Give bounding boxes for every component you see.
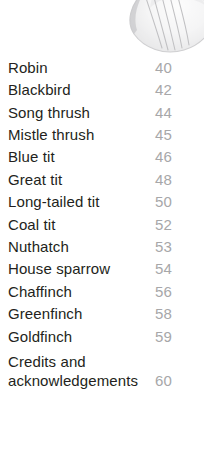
toc-entry-label: House sparrow	[8, 260, 110, 279]
toc-entry[interactable]: Great tit 48	[0, 167, 204, 189]
toc-entry-page: 53	[155, 238, 176, 257]
toc-entry-page: 59	[155, 328, 176, 347]
toc-entry[interactable]: Credits and acknowledgements 60	[0, 346, 204, 390]
toc-entry-page: 58	[155, 305, 176, 324]
toc-entry[interactable]: Blackbird 42	[0, 77, 204, 99]
toc-entry-label: Mistle thrush	[8, 126, 94, 145]
toc-entry-label: Blue tit	[8, 148, 55, 167]
toc-entry-page: 54	[155, 260, 176, 279]
toc-entry-page: 52	[155, 216, 176, 235]
toc-entry[interactable]: Chaffinch 56	[0, 279, 204, 301]
toc-entry-label: Nuthatch	[8, 238, 69, 257]
toc-entry-page: 48	[155, 171, 176, 190]
toc-entry-page: 56	[155, 283, 176, 302]
table-of-contents: Robin 40 Blackbird 42 Song thrush 44 Mis…	[0, 55, 204, 390]
toc-entry[interactable]: House sparrow 54	[0, 257, 204, 279]
toc-entry-label: Blackbird	[8, 81, 71, 100]
toc-entry[interactable]: Coal tit 52	[0, 212, 204, 234]
toc-entry[interactable]: Greenfinch 58	[0, 301, 204, 323]
toc-entry-label: Coal tit	[8, 216, 56, 235]
toc-entry[interactable]: Long-tailed tit 50	[0, 189, 204, 211]
toc-entry[interactable]: Robin 40	[0, 55, 204, 77]
toc-entry-page: 40	[155, 59, 176, 78]
toc-entry-page: 42	[155, 81, 176, 100]
toc-entry-label: Long-tailed tit	[8, 193, 100, 212]
toc-entry[interactable]: Song thrush 44	[0, 100, 204, 122]
toc-entry-page: 46	[155, 148, 176, 167]
toc-entry-page: 50	[155, 193, 176, 212]
toc-entry[interactable]: Blue tit 46	[0, 145, 204, 167]
toc-entry-label: Song thrush	[8, 104, 90, 123]
toc-entry-label: Goldfinch	[8, 328, 72, 347]
toc-entry[interactable]: Mistle thrush 45	[0, 122, 204, 144]
book-contents-page: Robin 40 Blackbird 42 Song thrush 44 Mis…	[0, 0, 204, 462]
toc-entry[interactable]: Nuthatch 53	[0, 234, 204, 256]
toc-entry-page: 44	[155, 104, 176, 123]
toc-entry-label: Great tit	[8, 171, 62, 190]
toc-entry-page: 45	[155, 126, 176, 145]
toc-entry[interactable]: Goldfinch 59	[0, 324, 204, 346]
toc-entry-label: Greenfinch	[8, 305, 82, 324]
toc-entry-label: Credits and acknowledgements	[8, 353, 138, 390]
toc-entry-label: Robin	[8, 59, 48, 78]
toc-entry-label: Chaffinch	[8, 283, 72, 302]
toc-entry-page: 60	[155, 372, 176, 391]
